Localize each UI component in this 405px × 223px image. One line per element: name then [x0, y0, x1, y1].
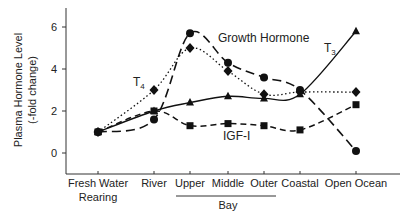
- series-line: [98, 105, 356, 132]
- y-tick-label: 0: [51, 147, 57, 159]
- y-axis-sublabel: (-fold change): [26, 56, 38, 124]
- label-t3: T3: [324, 41, 336, 57]
- square-marker: [151, 108, 158, 115]
- bay-group-label: Bay: [219, 199, 238, 211]
- diamond-marker: [224, 66, 233, 76]
- x-tick-label: Upper: [175, 177, 205, 189]
- label-growth-hormone: Growth Hormone: [218, 31, 310, 45]
- circle-marker: [224, 59, 232, 67]
- diamond-marker: [352, 87, 361, 97]
- square-marker: [225, 120, 232, 127]
- x-tick-label: Coastal: [281, 177, 318, 189]
- square-marker: [261, 122, 268, 129]
- x-tick-label: Fresh Water: [68, 177, 128, 189]
- x-tick-label: River: [141, 177, 167, 189]
- circle-marker: [150, 115, 158, 123]
- y-tick-label: 4: [51, 63, 57, 75]
- square-marker: [297, 126, 304, 133]
- circle-marker: [352, 147, 360, 155]
- diamond-marker: [186, 43, 195, 53]
- triangle-marker: [352, 27, 360, 35]
- circle-marker: [186, 29, 194, 37]
- x-tick-label: Middle: [212, 177, 244, 189]
- square-marker: [187, 122, 194, 129]
- x-tick-label: Outer: [250, 177, 278, 189]
- y-tick-label: 2: [51, 105, 57, 117]
- circle-marker: [260, 73, 268, 81]
- label-igf-i: IGF-I: [223, 129, 250, 143]
- y-axis-label: Plasma Hormone Level: [12, 33, 24, 147]
- square-marker: [95, 129, 102, 136]
- inline-labels: Growth Hormone T4 T3 IGF-I: [133, 31, 336, 143]
- x-tick-label: Open Ocean: [325, 177, 387, 189]
- square-marker: [353, 101, 360, 108]
- label-t4: T4: [133, 75, 145, 91]
- hormone-line-chart: 0246Plasma Hormone Level(-fold change)Fr…: [0, 0, 405, 223]
- y-tick-label: 6: [51, 21, 57, 33]
- x-tick-label: Rearing: [79, 191, 118, 203]
